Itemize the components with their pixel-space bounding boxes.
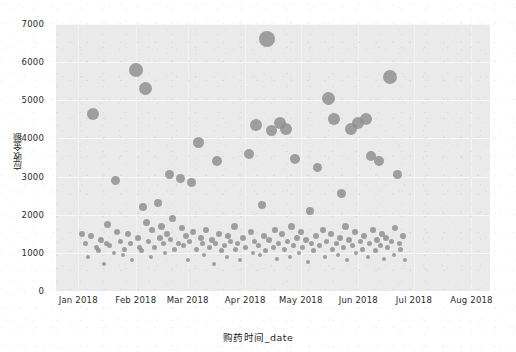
scatter-point (298, 229, 304, 235)
x-tick-label: Aug 2018 (450, 295, 493, 305)
scatter-point (352, 229, 358, 235)
scatter-point (300, 245, 305, 250)
scatter-point (367, 241, 372, 246)
scatter-point (313, 163, 322, 172)
scatter-point (266, 237, 272, 243)
scatter-point (392, 253, 396, 257)
scatter-point (392, 225, 398, 231)
scatter-point (360, 113, 372, 125)
scatter-point (146, 239, 151, 244)
y-tick-label: 0 (38, 286, 44, 296)
scatter-point (275, 257, 279, 261)
y-tick-label: 5000 (22, 95, 44, 105)
y-axis-tick-labels: 01000200030004000500060007000 (0, 24, 50, 291)
scatter-point (291, 243, 296, 248)
scatter-point (279, 231, 285, 237)
scatter-chart-figure: 应收金额 01000200030004000500060007000 Jan 2… (0, 0, 516, 352)
scatter-point (228, 239, 233, 244)
scatter-point (243, 245, 248, 250)
scatter-point (129, 63, 143, 77)
scatter-point (176, 174, 185, 183)
scatter-point (334, 241, 339, 246)
scatter-point (157, 235, 163, 241)
scatter-point (272, 227, 278, 233)
scatter-point (179, 225, 185, 231)
y-tick-label: 3000 (22, 172, 44, 182)
x-axis-tick-labels: Jan 2018Feb 2018Mar 2018Apr 2018May 2018… (56, 295, 490, 311)
scatter-point (111, 176, 120, 185)
x-tick-label: Jan 2018 (59, 295, 98, 305)
scatter-point (187, 178, 196, 187)
scatter-point (397, 241, 402, 246)
y-tick-label: 2000 (22, 210, 44, 220)
scatter-point (342, 223, 349, 230)
scatter-point (102, 262, 106, 266)
scatter-point (107, 243, 112, 248)
x-tick-label: Mar 2018 (167, 295, 209, 305)
scatter-point (258, 253, 262, 257)
scatter-point (350, 243, 355, 248)
scatter-point (152, 245, 157, 250)
scatter-point (382, 257, 386, 261)
scatter-point (285, 239, 290, 244)
scatter-point (200, 241, 205, 246)
scatter-point (122, 247, 127, 252)
scatter-point (149, 255, 153, 259)
scatter-point (248, 229, 254, 235)
scatter-point (128, 241, 133, 246)
scatter-point (233, 247, 238, 252)
scatter-point (306, 207, 314, 215)
scatter-point (87, 108, 99, 120)
scatter-point (186, 258, 190, 262)
scatter-point (181, 243, 186, 248)
scatter-point (389, 239, 394, 244)
scatter-point (336, 253, 340, 257)
scatter-point (135, 235, 141, 241)
scatter-point (176, 241, 181, 246)
scatter-point (187, 239, 192, 244)
gridline-vertical (188, 24, 189, 291)
gridline-vertical (358, 24, 359, 291)
scatter-point (212, 262, 216, 266)
scatter-point (112, 251, 116, 255)
scatter-point (202, 253, 206, 257)
gridline-vertical (78, 24, 79, 291)
y-tick-label: 6000 (22, 57, 44, 67)
scatter-point (258, 201, 266, 209)
scatter-point (130, 258, 134, 262)
x-tick-label: Jun 2018 (339, 295, 378, 305)
gridline-horizontal (56, 62, 490, 63)
scatter-point (288, 223, 295, 230)
scatter-point (231, 223, 238, 230)
scatter-point (324, 239, 329, 244)
scatter-point (360, 247, 365, 252)
scatter-point (225, 233, 231, 239)
gridline-horizontal (56, 177, 490, 178)
scatter-point (323, 255, 327, 259)
scatter-point (207, 245, 212, 250)
scatter-point (213, 241, 218, 246)
scatter-point (259, 31, 275, 47)
scatter-point (125, 231, 131, 237)
gridline-horizontal (56, 215, 490, 216)
scatter-point (238, 258, 242, 262)
scatter-point (164, 231, 170, 237)
scatter-point (121, 253, 125, 257)
scatter-point (222, 243, 227, 248)
scatter-point (143, 219, 150, 226)
scatter-point (317, 243, 322, 248)
scatter-point (358, 239, 363, 244)
scatter-point (235, 241, 240, 246)
scatter-point (297, 251, 301, 255)
y-tick-label: 4000 (22, 133, 44, 143)
scatter-point (104, 221, 111, 228)
scatter-point (216, 231, 222, 237)
scatter-point (250, 119, 262, 131)
x-axis-label: 购药时间_date (0, 330, 516, 344)
scatter-point (361, 233, 367, 239)
scatter-point (83, 241, 88, 246)
scatter-point (168, 237, 173, 242)
scatter-point (374, 237, 380, 243)
scatter-point (294, 235, 300, 241)
scatter-point (203, 227, 209, 233)
